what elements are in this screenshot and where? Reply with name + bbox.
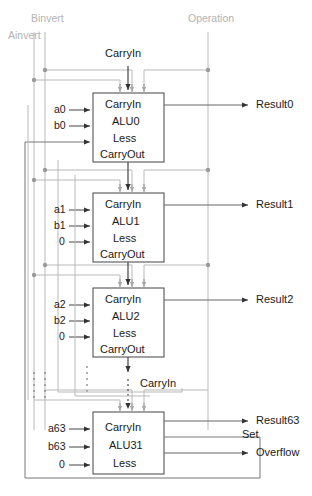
- result-outputs: [164, 105, 248, 453]
- alu2-line-carryout: CarryOut: [100, 344, 145, 355]
- alu31-line-less: Less: [113, 458, 136, 469]
- output-label-result1: Result1: [256, 199, 293, 210]
- input-label-a0: a0: [54, 104, 66, 115]
- input-label-b2: b2: [54, 315, 66, 326]
- output-label-overflow: Overflow: [256, 447, 299, 458]
- alu2-line-less: Less: [113, 328, 136, 339]
- operand-inputs: [69, 110, 90, 465]
- alu1-line-name: ALU1: [112, 216, 140, 227]
- alu2-line-name: ALU2: [112, 311, 140, 322]
- label-ainvert: Ainvert: [8, 30, 41, 41]
- input-label-a2: a2: [54, 299, 66, 310]
- alu0-line-carryout: CarryOut: [100, 149, 145, 160]
- label-mid-carryin: CarryIn: [140, 378, 176, 389]
- label-binvert: Binvert: [31, 13, 64, 24]
- alu2-line-carryin: CarryIn: [105, 294, 141, 305]
- label-operation: Operation: [188, 13, 234, 24]
- slice1-control-routing: [34, 170, 208, 188]
- input-label-less63: 0: [59, 459, 65, 470]
- alu1-line-less: Less: [113, 233, 136, 244]
- input-label-a63: a63: [48, 423, 66, 434]
- slice2-control-routing: [34, 265, 208, 283]
- output-label-result63: Result63: [256, 415, 299, 426]
- output-label-set: Set: [242, 429, 259, 440]
- slice31-control-routing: [34, 390, 208, 407]
- slice0-control-routing: [34, 70, 208, 88]
- input-label-b63: b63: [48, 441, 66, 452]
- alu1-line-carryout: CarryOut: [100, 249, 145, 260]
- ellipsis-dots: [34, 366, 87, 398]
- alu31-line-carryin: CarryIn: [105, 422, 141, 433]
- output-label-result0: Result0: [256, 99, 293, 110]
- input-label-b0: b0: [54, 120, 66, 131]
- input-label-b1: b1: [54, 220, 66, 231]
- alu0-line-name: ALU0: [112, 116, 140, 127]
- alu0-line-less: Less: [113, 133, 136, 144]
- input-label-less2: 0: [59, 331, 65, 342]
- alu0-line-carryin: CarryIn: [105, 99, 141, 110]
- alu-diagram: Ainvert Binvert Operation CarryIn CarryI…: [0, 0, 312, 496]
- label-top-carryin: CarryIn: [105, 48, 141, 59]
- alu1-line-carryin: CarryIn: [105, 199, 141, 210]
- input-label-less1: 0: [59, 236, 65, 247]
- input-label-a1: a1: [54, 204, 66, 215]
- output-label-result2: Result2: [256, 294, 293, 305]
- alu31-line-name: ALU31: [109, 440, 143, 451]
